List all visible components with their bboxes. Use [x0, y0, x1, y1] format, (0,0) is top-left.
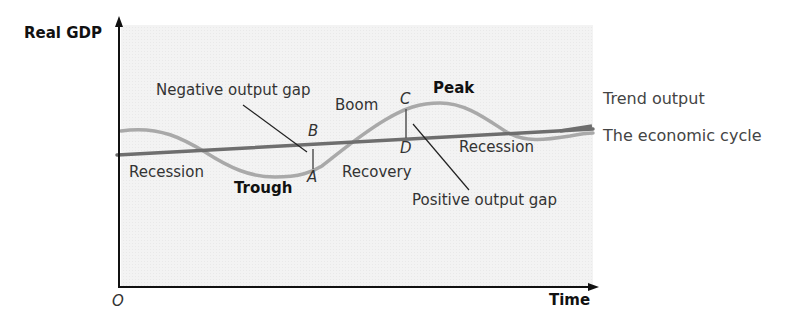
economic-cycle-diagram: Real GDP Time O Trend output The economi… — [0, 0, 798, 333]
y-axis-label: Real GDP — [24, 24, 102, 42]
point-b-label: B — [308, 122, 318, 140]
phase-trough: Trough — [234, 179, 292, 197]
phase-recovery: Recovery — [342, 163, 412, 181]
x-axis-label: Time — [549, 291, 590, 309]
phase-boom: Boom — [335, 96, 378, 114]
phase-peak: Peak — [433, 79, 475, 97]
point-a-label: A — [306, 168, 317, 186]
x-axis-arrow-icon — [588, 283, 599, 291]
phase-recession-2: Recession — [459, 138, 534, 156]
phase-recession-1: Recession — [129, 163, 204, 181]
legend-economic-cycle: The economic cycle — [602, 126, 761, 145]
point-d-label: D — [400, 139, 412, 157]
positive-output-gap-label: Positive output gap — [412, 191, 557, 209]
origin-label: O — [112, 292, 124, 310]
point-c-label: C — [400, 90, 411, 108]
y-axis-arrow-icon — [115, 16, 123, 27]
negative-output-gap-label: Negative output gap — [156, 81, 311, 99]
legend-trend-output: Trend output — [602, 89, 705, 108]
